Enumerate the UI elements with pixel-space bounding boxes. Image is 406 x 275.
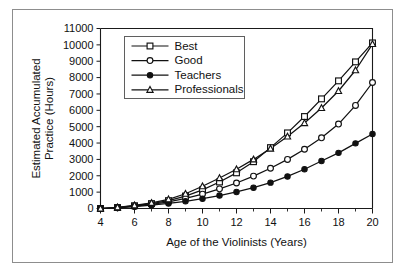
series-marker-professionals	[216, 175, 222, 181]
y-tick-label: 4000	[69, 137, 93, 149]
legend-label-teachers: Teachers	[175, 69, 222, 81]
series-marker-teachers	[285, 174, 290, 179]
y-tick-label: 7000	[69, 88, 93, 100]
series-marker-best	[353, 59, 359, 65]
x-tick-label: 14	[264, 216, 276, 228]
x-tick-label: 4	[97, 216, 103, 228]
y-axis-title-line2: Practice (Hours)	[43, 77, 55, 160]
x-tick-label: 18	[332, 216, 344, 228]
legend-label-professionals: Professionals	[175, 83, 244, 95]
series-marker-teachers	[302, 167, 307, 172]
y-axis-title-line1: Estimated Accumulated	[30, 58, 42, 178]
y-tick-label: 2000	[69, 170, 93, 182]
series-marker-good	[370, 80, 376, 86]
legend-label-best: Best	[175, 40, 199, 52]
chart-figure: 0100020003000400050006000700080009000100…	[0, 0, 406, 275]
series-marker-good	[217, 186, 223, 192]
y-tick-label: 1000	[69, 186, 93, 198]
series-marker-professionals	[165, 196, 171, 202]
series-marker-professionals	[199, 183, 205, 189]
y-tick-label: 11000	[64, 22, 94, 34]
legend-label-good: Good	[175, 54, 203, 66]
x-tick-label: 16	[298, 216, 310, 228]
x-tick-label: 20	[366, 216, 378, 228]
legend-marker-good	[147, 58, 153, 64]
y-tick-label: 10000	[63, 39, 94, 51]
x-tick-label: 10	[196, 216, 208, 228]
series-marker-good	[234, 180, 240, 186]
x-tick-label: 12	[230, 216, 242, 228]
series-marker-professionals	[250, 156, 256, 162]
series-marker-good	[353, 103, 359, 109]
legend-marker-best	[147, 43, 153, 49]
series-marker-good	[268, 165, 274, 171]
y-tick-label: 0	[87, 202, 93, 214]
series-marker-good	[251, 173, 257, 179]
y-tick-label: 3000	[69, 153, 93, 165]
series-marker-teachers	[336, 150, 341, 155]
x-axis-title: Age of the Violinists (Years)	[166, 236, 307, 248]
x-tick-label: 6	[131, 216, 137, 228]
x-tick-label: 8	[165, 216, 171, 228]
series-marker-best	[319, 96, 325, 102]
chart-plot-area: 0100020003000400050006000700080009000100…	[0, 0, 406, 275]
series-marker-good	[285, 157, 291, 163]
series-marker-good	[336, 121, 342, 127]
series-marker-teachers	[200, 196, 205, 201]
series-marker-teachers	[251, 185, 256, 190]
series-marker-teachers	[217, 193, 222, 198]
series-marker-professionals	[233, 166, 239, 172]
series-marker-teachers	[353, 141, 358, 146]
series-marker-teachers	[319, 158, 324, 163]
y-tick-label: 9000	[69, 55, 93, 67]
series-marker-teachers	[370, 131, 375, 136]
y-tick-label: 5000	[69, 121, 93, 133]
y-tick-label: 8000	[69, 71, 93, 83]
series-marker-teachers	[268, 180, 273, 185]
series-marker-good	[319, 135, 325, 141]
series-marker-teachers	[183, 199, 188, 204]
series-marker-professionals	[182, 190, 188, 196]
y-tick-label: 6000	[69, 104, 93, 116]
series-marker-good	[302, 146, 308, 152]
series-marker-teachers	[234, 189, 239, 194]
legend-marker-teachers	[147, 73, 152, 78]
series-marker-best	[336, 78, 342, 84]
